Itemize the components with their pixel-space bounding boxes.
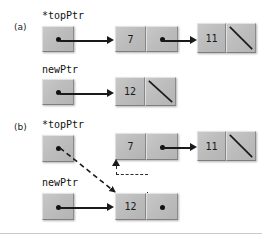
- node-7-b-value-inner: 7: [116, 134, 145, 159]
- arrow-node12-to-node7-b-seg-vertical-left: [116, 166, 117, 175]
- null-slash-icon: [227, 132, 255, 160]
- node-11-b-value-inner: 11: [198, 132, 225, 160]
- bottom-divider: [0, 233, 262, 234]
- arrow-node12-to-node7-b-seg-horizontal: [116, 174, 148, 175]
- node-12-b-value-cell: 12: [115, 193, 146, 220]
- arrow-newptr-to-node12-b: [60, 207, 108, 209]
- node-value: 12: [124, 201, 136, 212]
- node-12-b: 12: [115, 193, 178, 220]
- pointer-dot-icon: [160, 205, 165, 210]
- arrow-head-icon: [107, 203, 114, 211]
- node-12-b-value-inner: 12: [116, 194, 145, 219]
- node-value: 11: [205, 141, 217, 152]
- node-value: 7: [127, 141, 133, 152]
- linked-list-diagram: (a) *topPtr 7 11: [0, 0, 262, 240]
- node-7-b-value-cell: 7: [115, 133, 146, 160]
- node-11-b-null-cell: [226, 131, 256, 161]
- node-11-b: 11: [197, 131, 256, 161]
- pointer-label-newptr-b: newPtr: [42, 177, 78, 188]
- node-12-b-link-inner: [147, 194, 177, 219]
- arrow-node7-to-node11-b: [161, 147, 191, 149]
- node-12-b-link-cell: [146, 193, 178, 220]
- node-11-b-value-cell: 11: [197, 131, 226, 161]
- arrow-head-icon: [190, 143, 197, 151]
- arrow-head-icon: [112, 159, 120, 166]
